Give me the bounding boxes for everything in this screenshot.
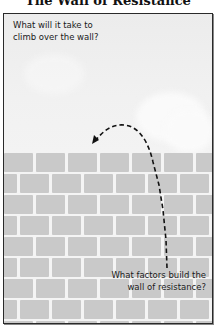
brick: [36, 153, 65, 172]
brick-row: [4, 321, 212, 324]
brick: [20, 258, 49, 277]
brick: [100, 321, 129, 324]
brick: [180, 300, 209, 319]
brick: [4, 237, 33, 256]
brick: [4, 174, 17, 193]
brick: [180, 216, 209, 235]
brick: [132, 321, 161, 324]
brick: [36, 237, 65, 256]
question-bottom-line-1: What factors build the: [66, 269, 206, 281]
brick-row: [4, 174, 212, 193]
brick-wall: [4, 153, 212, 324]
brick: [132, 237, 161, 256]
question-top-line-2: climb over the wall?: [13, 31, 123, 43]
cloud-shape: [164, 109, 213, 153]
brick: [36, 321, 65, 324]
brick: [116, 174, 145, 193]
brick: [36, 279, 65, 298]
brick-row: [4, 153, 212, 172]
brick-row: [4, 216, 212, 235]
brick: [180, 174, 209, 193]
brick: [68, 237, 97, 256]
brick: [164, 237, 193, 256]
brick: [100, 153, 129, 172]
brick-row: [4, 237, 212, 256]
brick: [68, 153, 97, 172]
brick: [164, 321, 193, 324]
brick: [164, 153, 193, 172]
brick: [36, 195, 65, 214]
brick: [20, 216, 49, 235]
brick: [100, 237, 129, 256]
brick: [196, 153, 212, 172]
brick: [132, 195, 161, 214]
brick: [164, 195, 193, 214]
brick: [84, 216, 113, 235]
brick: [52, 216, 81, 235]
brick: [4, 216, 17, 235]
brick: [68, 321, 97, 324]
cloud-shape: [24, 54, 84, 94]
brick: [20, 300, 49, 319]
brick: [196, 237, 212, 256]
brick: [4, 153, 33, 172]
brick: [4, 258, 17, 277]
brick: [148, 174, 177, 193]
brick: [132, 153, 161, 172]
brick: [4, 279, 33, 298]
brick: [196, 195, 212, 214]
brick-row: [4, 195, 212, 214]
illustration-frame: What will it take to climb over the wall…: [3, 13, 213, 324]
brick: [52, 174, 81, 193]
brick-row: [4, 300, 212, 319]
brick: [100, 195, 129, 214]
diagram-title: The Wall of Resistance: [0, 0, 216, 9]
brick: [68, 195, 97, 214]
question-top-line-1: What will it take to: [13, 19, 123, 31]
brick: [20, 174, 49, 193]
brick: [196, 321, 212, 324]
brick: [116, 216, 145, 235]
brick: [4, 300, 17, 319]
brick: [84, 174, 113, 193]
question-bottom: What factors build the wall of resistanc…: [66, 269, 206, 293]
brick: [84, 300, 113, 319]
brick: [52, 300, 81, 319]
question-bottom-line-2: wall of resistance?: [66, 281, 206, 293]
brick: [116, 300, 145, 319]
brick: [4, 321, 33, 324]
question-top: What will it take to climb over the wall…: [13, 19, 123, 43]
brick: [4, 195, 33, 214]
brick: [148, 216, 177, 235]
brick: [148, 300, 177, 319]
